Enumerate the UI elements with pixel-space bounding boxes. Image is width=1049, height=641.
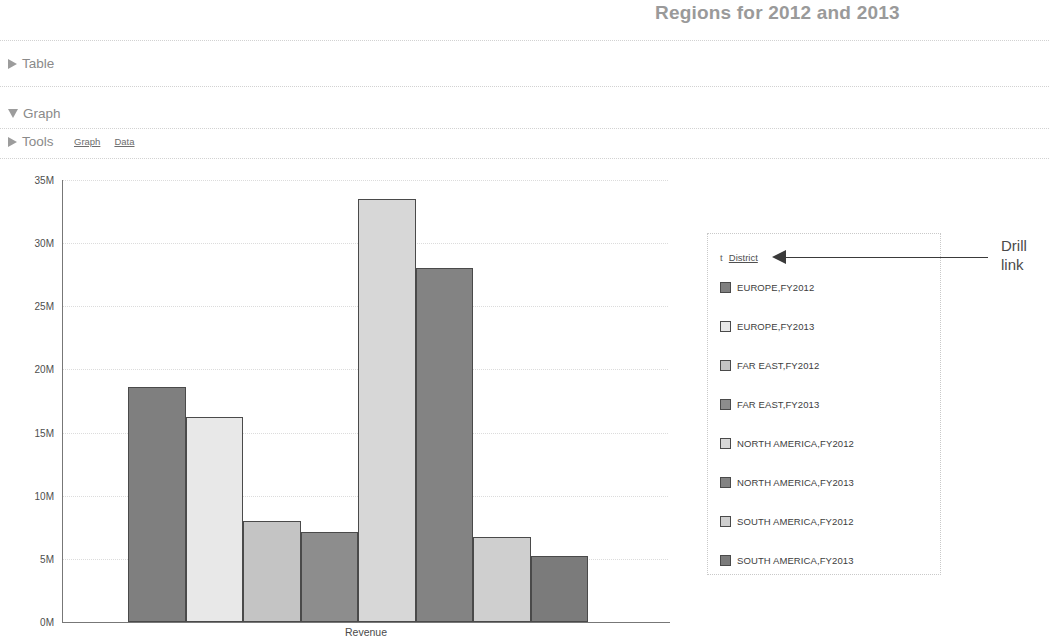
section-label-table: Table [22, 56, 54, 71]
triangle-right-icon-tools [8, 137, 17, 147]
y-axis-tick-10M: 10M [14, 490, 54, 501]
legend-item-label: FAR EAST,FY2012 [737, 360, 819, 371]
section-toggle-tools[interactable]: Tools [8, 134, 54, 149]
bar-7[interactable] [531, 556, 589, 622]
legend-swatch-icon [720, 321, 731, 332]
y-axis-tick-30M: 30M [14, 238, 54, 249]
chart-legend: t District EUROPE,FY2012EUROPE,FY2013FAR… [707, 233, 941, 575]
y-axis-tick-15M: 15M [14, 427, 54, 438]
legend-item-label: NORTH AMERICA,FY2013 [737, 477, 854, 488]
legend-swatch-icon [720, 399, 731, 410]
legend-item-label: SOUTH AMERICA,FY2013 [737, 555, 854, 566]
section-label-tools: Tools [22, 134, 54, 149]
y-axis-tick-35M: 35M [14, 175, 54, 186]
legend-swatch-icon [720, 360, 731, 371]
section-toggle-table[interactable]: Table [8, 56, 54, 71]
legend-item-label: EUROPE,FY2012 [737, 282, 814, 293]
legend-drill-link-district[interactable]: District [729, 252, 758, 263]
section-toggle-graph[interactable]: Graph [8, 106, 61, 121]
section-label-graph: Graph [23, 106, 61, 121]
tools-link-data[interactable]: Data [114, 136, 134, 147]
y-axis-line [62, 180, 63, 623]
legend-swatch-icon [720, 516, 731, 527]
legend-item-label: FAR EAST,FY2013 [737, 399, 819, 410]
divider-table [0, 86, 1049, 87]
page-title: Regions for 2012 and 2013 [655, 2, 900, 24]
bar-0[interactable] [128, 387, 186, 622]
triangle-right-icon [8, 59, 17, 69]
legend-item[interactable]: SOUTH AMERICA,FY2013 [720, 555, 854, 566]
tools-link-group: Graph Data [74, 136, 134, 147]
callout-leader-line [784, 257, 988, 258]
legend-item-label: EUROPE,FY2013 [737, 321, 814, 332]
legend-item[interactable]: NORTH AMERICA,FY2013 [720, 477, 854, 488]
legend-item-label: SOUTH AMERICA,FY2012 [737, 516, 854, 527]
y-axis-tick-5M: 5M [14, 553, 54, 564]
bar-5[interactable] [416, 268, 474, 622]
y-axis-tick-20M: 20M [14, 364, 54, 375]
divider-top [0, 40, 1049, 41]
sort-arrow-icon: t [720, 252, 723, 263]
x-axis-title: Revenue [62, 626, 670, 638]
legend-header[interactable]: t District [720, 252, 758, 263]
y-axis-tick-0M: 0M [14, 617, 54, 628]
x-axis-line [62, 622, 670, 623]
divider-graph [0, 128, 1049, 129]
callout-label-drill-link: Drill link [1001, 236, 1049, 274]
bar-1[interactable] [186, 417, 244, 622]
legend-swatch-icon [720, 438, 731, 449]
bar-6[interactable] [473, 537, 531, 622]
y-axis-tick-25M: 25M [14, 301, 54, 312]
gridline [62, 180, 668, 181]
legend-item[interactable]: EUROPE,FY2012 [720, 282, 814, 293]
bar-3[interactable] [301, 532, 359, 622]
legend-item[interactable]: SOUTH AMERICA,FY2012 [720, 516, 854, 527]
legend-item-label: NORTH AMERICA,FY2012 [737, 438, 854, 449]
legend-item[interactable]: FAR EAST,FY2012 [720, 360, 819, 371]
legend-swatch-icon [720, 477, 731, 488]
legend-item[interactable]: NORTH AMERICA,FY2012 [720, 438, 854, 449]
triangle-down-icon [8, 109, 18, 118]
divider-tools [0, 158, 1049, 159]
bar-4[interactable] [358, 199, 416, 622]
legend-item[interactable]: FAR EAST,FY2013 [720, 399, 819, 410]
tools-link-graph[interactable]: Graph [74, 136, 100, 147]
legend-swatch-icon [720, 555, 731, 566]
legend-item[interactable]: EUROPE,FY2013 [720, 321, 814, 332]
bar-2[interactable] [243, 521, 301, 622]
legend-swatch-icon [720, 282, 731, 293]
